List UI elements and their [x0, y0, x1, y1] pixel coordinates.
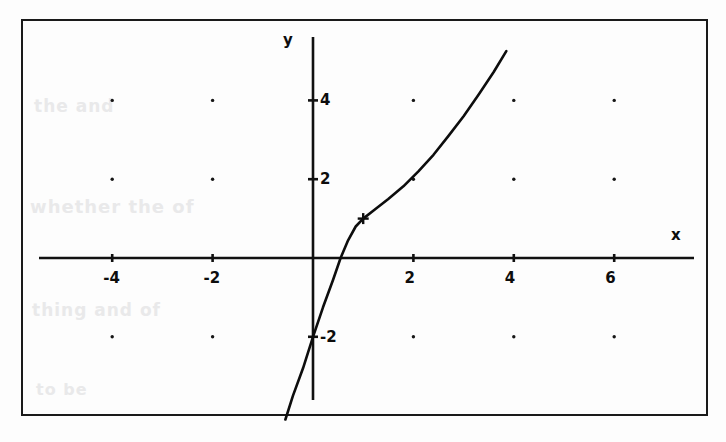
- grid-dot: [613, 99, 616, 102]
- x-tick-label: 4: [505, 269, 515, 287]
- y-tick-label: 4: [320, 91, 330, 109]
- grid-dot: [512, 99, 515, 102]
- y-axis-label: y: [283, 31, 293, 49]
- grid-dot: [512, 335, 515, 338]
- y-tick-label: -2: [320, 328, 337, 346]
- function-curve: [285, 51, 506, 419]
- figure-root: the and whether the of thing and of to b…: [0, 0, 726, 442]
- grid-dot: [613, 178, 616, 181]
- y-tick-label: 2: [320, 170, 330, 188]
- data-curve-layer: [285, 51, 506, 419]
- grid-dot: [512, 178, 515, 181]
- grid-dot: [111, 335, 114, 338]
- x-tick-label: -4: [103, 269, 120, 287]
- grid-dot: [211, 178, 214, 181]
- x-axis-label: x: [671, 226, 681, 244]
- x-tick-label: 6: [605, 269, 615, 287]
- x-tick-label: 2: [404, 269, 414, 287]
- grid-dot: [111, 178, 114, 181]
- chart-plot-area: [0, 0, 726, 442]
- grid-dot: [613, 335, 616, 338]
- grid-dot: [412, 99, 415, 102]
- grid-dot: [111, 99, 114, 102]
- grid-dot: [211, 335, 214, 338]
- grid-dot: [412, 335, 415, 338]
- grid-dot: [211, 99, 214, 102]
- x-tick-label: -2: [204, 269, 221, 287]
